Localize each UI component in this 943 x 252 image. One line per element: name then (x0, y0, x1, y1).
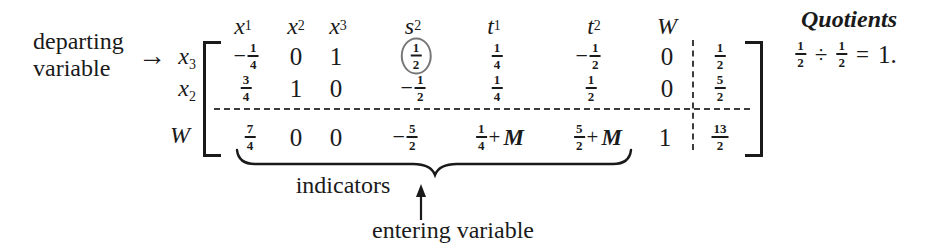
col-header-x2-sub: 2 (298, 19, 305, 33)
row-label-x2: x2 (178, 76, 196, 104)
row-label-x3: x3 (178, 44, 196, 72)
matrix-cell-r1c5: 12 (586, 73, 597, 103)
departing-variable-line1: departing (33, 28, 124, 55)
col-header-x3-base: x (329, 14, 340, 38)
matrix-cell-r2c1: 0 (290, 125, 303, 150)
pivot-cell: 12 (401, 38, 432, 75)
rhs-cell-r2: 132 (712, 122, 729, 152)
col-header-s2-base: s (405, 14, 414, 38)
quotient-lhs-num: 1 (795, 39, 806, 55)
quotient-lhs-den: 2 (797, 55, 804, 69)
departing-variable-line2: variable (33, 55, 124, 82)
simplex-tableau-page: departing variable → x3 x2 W x1 x2 x3 s2… (0, 0, 943, 252)
matrix-cell-r0c1: 0 (290, 44, 303, 69)
col-header-s2: s2 (405, 14, 421, 38)
quotient-rhs-den: 2 (838, 55, 845, 69)
matrix-cell-r1c4: 14 (492, 73, 503, 103)
quotient-rhs-num: 1 (836, 39, 847, 55)
matrix-cell-r0c4: 14 (492, 41, 503, 71)
equals-sign: = (856, 43, 869, 66)
col-header-t1-sub: 1 (494, 19, 501, 33)
row-label-x2-base: x (178, 75, 189, 101)
col-header-t2: t2 (587, 14, 601, 38)
row-label-x3-sub: 3 (189, 57, 196, 72)
division-sign: ÷ (815, 43, 828, 66)
row-label-x3-base: x (178, 43, 189, 69)
matrix-cell-r0c6: 0 (661, 44, 674, 69)
matrix-cell-r0c0: −14 (234, 41, 259, 71)
matrix-cell-r0c2: 1 (330, 44, 343, 69)
quotient-equation: 12 ÷ 12 = 1. (795, 39, 896, 69)
rhs-cell-r1: 52 (715, 73, 726, 103)
indicators-underbrace (233, 148, 635, 178)
col-header-x2: x2 (287, 14, 305, 38)
quotient-result: 1. (878, 42, 897, 67)
matrix-cell-r1c2: 0 (330, 76, 343, 101)
row-label-w-base: W (170, 122, 190, 148)
row-label-x2-sub: 2 (189, 89, 196, 104)
col-header-t2-sub: 2 (594, 19, 601, 33)
departing-variable-label: departing variable (33, 28, 124, 82)
col-header-x3: x3 (329, 14, 347, 38)
matrix-cell-r1c3: −12 (401, 73, 426, 103)
quotients-title: Quotients (801, 7, 897, 31)
matrix-right-bracket (745, 41, 763, 157)
col-header-x1-base: x (234, 14, 245, 38)
col-header-t1-base: t (487, 14, 494, 38)
rhs-column-separator (692, 40, 694, 150)
col-header-w: W (657, 14, 677, 38)
matrix-cell-r2c2: 0 (330, 125, 343, 150)
col-header-x2-base: x (287, 14, 298, 38)
matrix-cell-r1c1: 1 (290, 76, 303, 101)
objective-row-separator (214, 108, 750, 110)
matrix-left-bracket (203, 41, 221, 157)
matrix-cell-r1c0: 34 (241, 73, 252, 103)
col-header-x3-sub: 3 (340, 19, 347, 33)
matrix-cell-r0c5: −12 (576, 41, 601, 71)
quotient-lhs-fraction: 12 (795, 39, 806, 69)
entering-variable-arrow-icon (412, 184, 430, 221)
row-label-w: W (170, 123, 190, 151)
quotient-rhs-fraction: 12 (836, 39, 847, 69)
departing-arrow-icon: → (138, 40, 166, 72)
col-header-s2-sub: 2 (414, 19, 421, 33)
matrix-cell-r2c6: 1 (659, 125, 672, 150)
col-header-w-base: W (657, 14, 677, 38)
col-header-x1-sub: 1 (245, 19, 252, 33)
entering-variable-label: entering variable (372, 217, 534, 244)
indicators-label: indicators (296, 172, 391, 199)
col-header-t2-base: t (587, 14, 594, 38)
col-header-x1: x1 (234, 14, 252, 38)
matrix-cell-r1c6: 0 (661, 76, 674, 101)
rhs-cell-r0: 12 (715, 41, 726, 71)
col-header-t1: t1 (487, 14, 501, 38)
